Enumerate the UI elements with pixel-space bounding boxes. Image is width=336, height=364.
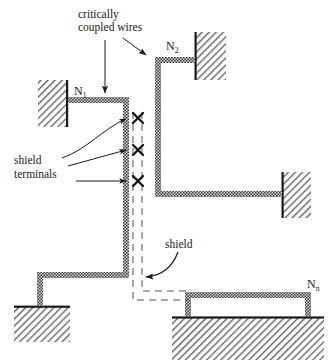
node-label-n1-letter: N	[74, 84, 83, 98]
conductor-nn-body	[188, 295, 308, 316]
conductor-n1-outline	[40, 100, 126, 306]
contact-bar-bottom-right-ground	[172, 316, 324, 318]
figure-canvas: critically coupled wires shield terminal…	[0, 0, 336, 364]
wall-block-left	[38, 80, 68, 127]
ground-block-bottom-left	[14, 307, 70, 342]
node-label-n2-subscript: 2	[175, 46, 179, 55]
node-label-n2-letter: N	[166, 39, 175, 53]
node-label-n1: N1	[74, 84, 87, 100]
schematic-diagram: critically coupled wires shield terminal…	[0, 0, 336, 364]
label-coupled-wires-line1: critically	[78, 8, 119, 21]
contact-bar-left-wall	[66, 80, 68, 127]
conductor-nn	[188, 295, 308, 316]
node-label-nn-letter: N	[307, 277, 316, 291]
text-labels: critically coupled wires shield terminal…	[14, 8, 320, 293]
arrow-shield-label	[146, 252, 178, 277]
wall-block-top-right	[196, 32, 226, 80]
node-label-nn: Nn	[307, 277, 320, 293]
conductor-n1	[40, 100, 126, 306]
conductor-n2-body	[158, 60, 282, 194]
label-coupled-wires-line2: coupled wires	[78, 21, 143, 34]
conductor-n2	[158, 60, 282, 194]
shield-terminal-3	[133, 176, 143, 186]
ground-block-bottom-right	[172, 318, 324, 360]
label-shield: shield	[165, 238, 193, 250]
wall-block-middle-right	[283, 172, 311, 218]
contact-bar-top-right-wall	[195, 32, 197, 80]
conductor-nn-outline	[188, 295, 308, 316]
arrow-shield-terminal-2	[68, 150, 126, 166]
arrow-coupled-wires-diagonal	[123, 38, 146, 55]
label-shield-terminals-line1: shield	[14, 154, 42, 166]
node-label-n1-subscript: 1	[83, 91, 87, 100]
shield-line-outer	[142, 112, 188, 291]
node-label-nn-subscript: n	[316, 284, 320, 293]
label-shield-terminals-line2: terminals	[14, 168, 57, 180]
node-label-n2: N2	[166, 39, 179, 55]
conductor-n2-outline	[158, 60, 282, 194]
